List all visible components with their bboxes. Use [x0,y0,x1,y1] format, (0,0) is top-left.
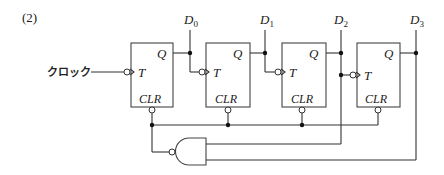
nand-gate-body-icon [176,138,207,165]
ff3-q-label: Q [384,46,394,61]
d0-junction [188,51,192,55]
clr-junction-1 [226,123,230,127]
d0-label: D0 [183,12,198,29]
ff1-t-label: T [213,65,221,80]
clock-label: クロック [47,66,91,79]
clr-junction-0 [150,123,154,127]
clr-junction-2 [300,123,304,127]
nand-output-bubble-icon [169,149,175,155]
ff1-clr-label: CLR [215,92,238,106]
d1-junction [263,51,267,55]
ff0-q-label: Q [157,46,167,61]
ff2-clock-bubble-icon [275,69,281,75]
ff1-clock-bubble-icon [199,69,205,75]
nand-gate [169,138,206,165]
ff0-t-label: T [138,65,146,80]
ff0-clock-bubble-icon [124,69,130,75]
d3-junction [414,51,418,55]
ff2-t-label: T [289,65,297,80]
ff3-clock-bubble-icon [350,72,356,78]
flip-flop-1: Q T CLR [199,43,250,113]
ff1-clr-bubble-icon [225,107,231,113]
ff2-clr-label: CLR [291,92,314,106]
ff0-clr-label: CLR [139,92,162,106]
flip-flop-2: Q T CLR [275,43,326,113]
d2-t-junction [339,73,343,77]
ff0-clr-bubble-icon [149,107,155,113]
flip-flop-0: Q T CLR [124,43,173,113]
d2-junction [339,51,343,55]
ff2-q-label: Q [309,46,319,61]
ff3-t-label: T [364,68,372,83]
ff3-clr-label: CLR [365,92,388,106]
d2-label: D2 [333,12,348,29]
flip-flop-3: Q T CLR [350,43,400,113]
problem-label: (2) [22,10,37,25]
ff2-clr-bubble-icon [299,107,305,113]
ff3-clr-bubble-icon [375,107,381,113]
d3-label: D3 [409,12,424,29]
ff1-q-label: Q [233,46,243,61]
d1-label: D1 [259,12,274,29]
counter-circuit-diagram: (2) クロック Q T CLR D0 Q T CLR D1 Q T CLR [0,0,444,175]
